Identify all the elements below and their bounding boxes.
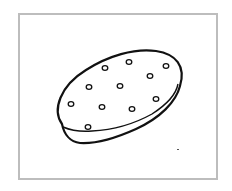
cracker-hole: [117, 84, 123, 89]
cracker-hole: [126, 60, 132, 65]
cracker-hole: [102, 66, 108, 71]
cracker-illustration: [0, 0, 232, 191]
speck: [177, 149, 179, 150]
cracker-rim: [63, 84, 178, 131]
cracker-hole: [163, 64, 169, 69]
cracker-hole: [99, 105, 105, 110]
cracker-hole: [129, 107, 135, 112]
cracker-hole: [85, 125, 91, 130]
cracker-hole: [86, 85, 92, 90]
cracker-hole: [153, 97, 159, 102]
cracker-hole: [68, 102, 74, 107]
cracker-hole: [147, 74, 153, 79]
